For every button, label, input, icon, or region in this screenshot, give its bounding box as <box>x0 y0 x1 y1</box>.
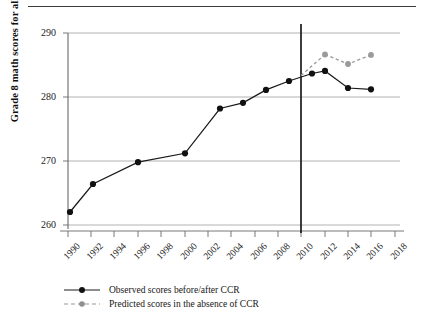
y-tick-260: 260 <box>22 219 56 230</box>
series-observed <box>67 68 374 215</box>
legend-item-predicted: Predicted scores in the absence of CCR <box>62 297 259 311</box>
y-tick-270: 270 <box>22 155 56 166</box>
legend-label-observed: Observed scores before/after CCR <box>109 285 240 295</box>
legend-item-observed: Observed scores before/after CCR <box>62 283 259 297</box>
chart-legend: Observed scores before/after CCR Predict… <box>62 283 259 311</box>
legend-key-predicted-icon <box>62 299 102 309</box>
plot-area: Grade 8 math scores for all students 290… <box>0 0 422 330</box>
y-tick-280: 280 <box>22 91 56 102</box>
x-axis-ticks <box>68 231 395 237</box>
y-tick-290: 290 <box>22 27 56 38</box>
figure: Grade 8 math scores for all students 290… <box>0 0 422 330</box>
y-axis-ticks <box>63 33 68 225</box>
legend-label-predicted: Predicted scores in the absence of CCR <box>109 299 259 309</box>
legend-key-observed-icon <box>62 285 102 295</box>
y-axis-label: Grade 8 math scores for all students <box>9 0 20 140</box>
gridlines <box>68 33 400 225</box>
